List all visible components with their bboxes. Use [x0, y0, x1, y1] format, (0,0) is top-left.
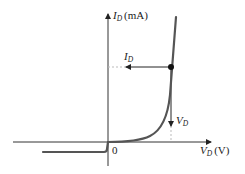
x-axis-label: VD(V)	[200, 144, 230, 158]
current-label: ID	[123, 50, 134, 64]
y-axis-label: ID(mA)	[112, 9, 148, 23]
voltage-label: VD	[176, 114, 189, 128]
origin-label: 0	[112, 144, 118, 156]
diode-curve	[43, 17, 176, 152]
diode-characteristic-diagram: ID(mA) VD(V) 0 ID VD	[0, 0, 245, 174]
operating-point	[168, 64, 174, 70]
